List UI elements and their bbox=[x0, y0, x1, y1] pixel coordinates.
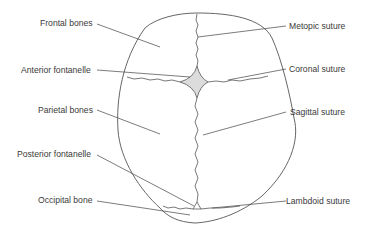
skull-diagram: Frontal bones Anterior fontanelle Pariet… bbox=[0, 0, 371, 237]
label-parietal-bones: Parietal bones bbox=[38, 105, 93, 115]
label-coronal-suture: Coronal suture bbox=[289, 64, 345, 74]
leader-posterior-fontanelle bbox=[97, 155, 194, 206]
coronal-suture-right bbox=[208, 76, 268, 82]
label-posterior-fontanelle: Posterior fontanelle bbox=[17, 149, 91, 159]
leader-parietal-bones bbox=[97, 110, 160, 134]
skull-outline bbox=[118, 13, 296, 223]
coronal-suture-left bbox=[127, 77, 180, 82]
label-anterior-fontanelle: Anterior fontanelle bbox=[21, 65, 91, 75]
leader-metopic-suture bbox=[198, 26, 286, 37]
anterior-fontanelle-shape bbox=[180, 66, 208, 98]
metopic-suture-line bbox=[196, 14, 198, 66]
label-sagittal-suture: Sagittal suture bbox=[290, 107, 345, 117]
posterior-fontanelle-shape bbox=[193, 202, 201, 209]
leader-sagittal-suture bbox=[203, 112, 286, 135]
label-metopic-suture: Metopic suture bbox=[289, 21, 345, 31]
label-frontal-bones: Frontal bones bbox=[40, 18, 93, 28]
sagittal-suture-line bbox=[195, 98, 198, 202]
label-lambdoid-suture: Lambdoid suture bbox=[286, 196, 350, 206]
lambdoid-suture-left bbox=[163, 206, 193, 209]
leader-frontal-bones bbox=[97, 24, 160, 47]
leader-lambdoid-suture bbox=[212, 201, 286, 208]
label-occipital-bone: Occipital bone bbox=[38, 195, 92, 205]
leader-anterior-fontanelle bbox=[97, 70, 190, 77]
